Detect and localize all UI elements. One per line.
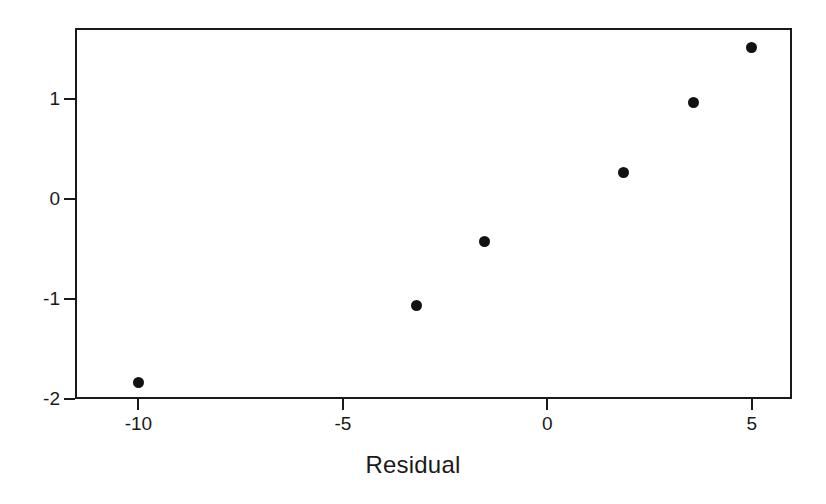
x-axis-tick-mark <box>342 399 344 410</box>
x-axis-tick-label: -5 <box>334 414 351 433</box>
y-axis-tick-label: -2 <box>43 389 60 408</box>
y-axis-tick-mark <box>64 298 75 300</box>
plot-area <box>75 28 792 399</box>
y-axis-tick-mark <box>64 198 75 200</box>
y-axis-tick-label: -1 <box>43 289 60 308</box>
data-point <box>479 236 490 247</box>
x-axis-tick-label: 0 <box>542 414 553 433</box>
y-axis-tick-mark <box>64 98 75 100</box>
x-axis-tick-label: -10 <box>125 414 152 433</box>
x-axis-tick-mark <box>546 399 548 410</box>
data-point <box>133 377 144 388</box>
x-axis-title: Residual <box>0 451 826 479</box>
chart-screenshot: Residual 10-1-2-10-505 <box>0 0 826 504</box>
x-axis-tick-mark <box>137 399 139 410</box>
y-axis-tick-mark <box>64 398 75 400</box>
y-axis-tick-label: 1 <box>49 89 60 108</box>
data-point <box>746 42 757 53</box>
data-point <box>411 300 422 311</box>
data-point <box>618 167 629 178</box>
x-axis-tick-mark <box>751 399 753 410</box>
y-axis-tick-label: 0 <box>49 189 60 208</box>
x-axis-tick-label: 5 <box>747 414 758 433</box>
data-point <box>688 97 699 108</box>
